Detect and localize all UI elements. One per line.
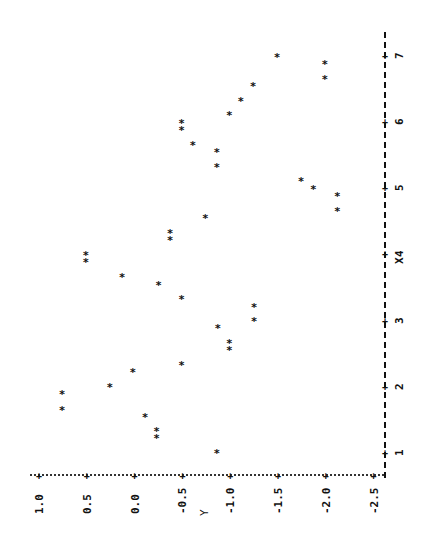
data-point: * <box>236 96 246 106</box>
data-point: * <box>320 59 330 69</box>
data-point: * <box>213 323 223 333</box>
x-tick-mark: + <box>381 249 389 257</box>
y-tick-label: 0.5 <box>81 494 94 514</box>
x-tick-mark: + <box>381 183 389 191</box>
data-point: * <box>176 118 186 128</box>
y-tick-mark: + <box>226 471 234 479</box>
data-point: * <box>140 412 150 422</box>
y-tick-mark: + <box>322 471 330 479</box>
x-tick-label: 6 <box>393 118 406 125</box>
scatter-plot: +1+2+3+4+5+6+7 +1.0+0.5+0.0+-0.5+-1.0+-1… <box>0 0 430 537</box>
y-tick-label: -2.5 <box>368 488 381 515</box>
data-point: * <box>249 316 259 326</box>
data-point: * <box>200 213 210 223</box>
y-axis-label: Y <box>198 509 211 516</box>
x-tick-mark: + <box>381 448 389 456</box>
data-point: * <box>117 272 127 282</box>
x-tick-label: 2 <box>393 383 406 390</box>
data-point: * <box>176 360 186 370</box>
x-axis-label: X <box>393 257 406 264</box>
data-point: * <box>212 162 222 172</box>
data-point: * <box>212 147 222 157</box>
data-point: * <box>308 184 318 194</box>
data-point: * <box>320 74 330 84</box>
x-tick-mark: + <box>381 117 389 125</box>
y-tick-label: -1.0 <box>224 488 237 515</box>
x-tick-mark: + <box>381 51 389 59</box>
data-point: * <box>165 228 175 238</box>
y-tick-mark: + <box>370 471 378 479</box>
data-point: * <box>105 382 115 392</box>
data-point: * <box>128 367 138 377</box>
data-point: * <box>176 294 186 304</box>
y-tick-mark: + <box>274 471 282 479</box>
x-tick-label: 5 <box>393 185 406 192</box>
x-tick-label: 3 <box>393 317 406 324</box>
data-point: * <box>224 110 234 120</box>
data-point: * <box>332 191 342 201</box>
data-point: * <box>81 250 91 260</box>
data-point: * <box>224 338 234 348</box>
data-point: * <box>57 389 67 399</box>
data-point: * <box>57 405 67 415</box>
data-point: * <box>154 280 164 290</box>
x-tick-label: 1 <box>393 449 406 456</box>
data-point: * <box>272 52 282 62</box>
data-point: * <box>296 176 306 186</box>
y-tick-label: 0.0 <box>129 494 142 514</box>
y-tick-label: -0.5 <box>176 488 189 515</box>
y-tick-mark: + <box>131 471 139 479</box>
x-tick-label: 7 <box>393 52 406 59</box>
y-tick-mark: + <box>35 471 43 479</box>
y-tick-mark: + <box>83 471 91 479</box>
data-point: * <box>188 140 198 150</box>
y-tick-mark: + <box>178 471 186 479</box>
data-point: * <box>249 302 259 312</box>
y-tick-label: 1.0 <box>33 494 46 514</box>
y-tick-label: -1.5 <box>272 488 285 515</box>
y-tick-label: -2.0 <box>320 488 333 515</box>
data-point: * <box>212 448 222 458</box>
data-point: * <box>332 206 342 216</box>
data-point: * <box>152 426 162 436</box>
data-point: * <box>248 81 258 91</box>
x-tick-mark: + <box>381 382 389 390</box>
x-tick-mark: + <box>381 316 389 324</box>
